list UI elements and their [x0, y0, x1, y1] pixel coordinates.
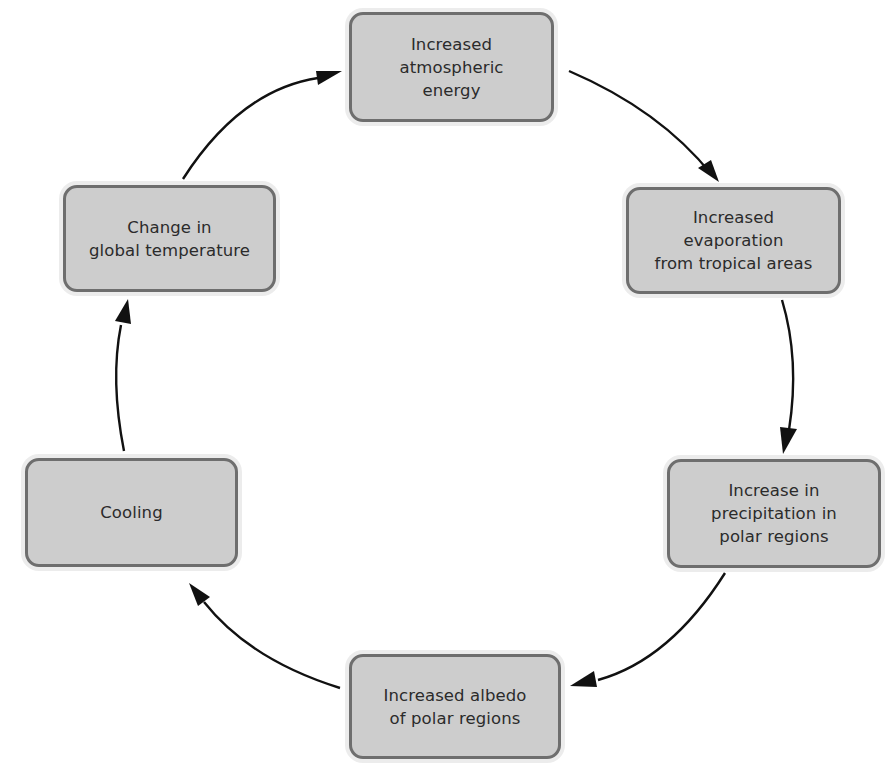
- node-label: Increased albedo of polar regions: [383, 684, 526, 730]
- node-change-global-temperature: Change in global temperature: [63, 185, 276, 292]
- node-increased-atmospheric-energy: Increased atmospheric energy: [349, 12, 554, 122]
- node-label: Change in global temperature: [89, 216, 250, 262]
- node-increased-evaporation: Increased evaporation from tropical area…: [626, 187, 841, 294]
- node-increased-albedo: Increased albedo of polar regions: [349, 654, 561, 759]
- node-cooling: Cooling: [25, 458, 238, 567]
- arrow-albedo-to-cooling: [189, 583, 340, 688]
- node-label: Increased atmospheric energy: [400, 33, 504, 102]
- arrow-temperature-to-energy: [183, 71, 342, 179]
- arrow-energy-to-evaporation: [569, 71, 719, 182]
- node-label: Cooling: [100, 501, 163, 524]
- feedback-cycle-diagram: Increased atmospheric energy Increased e…: [0, 0, 895, 780]
- arrow-cooling-to-temperature: [115, 299, 131, 451]
- arrow-evaporation-to-precipitation: [780, 300, 797, 454]
- node-increase-precipitation: Increase in precipitation in polar regio…: [667, 459, 881, 568]
- node-label: Increased evaporation from tropical area…: [655, 206, 813, 275]
- node-label: Increase in precipitation in polar regio…: [711, 479, 837, 548]
- arrow-precipitation-to-albedo: [570, 573, 725, 687]
